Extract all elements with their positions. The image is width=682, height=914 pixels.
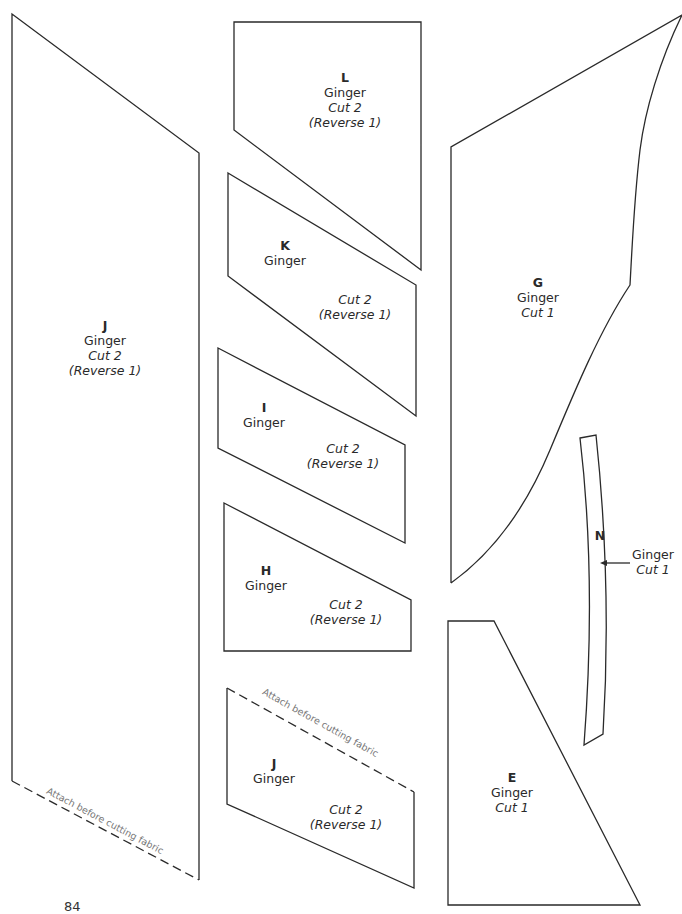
piece-cut: Cut 1	[628, 562, 678, 577]
piece-n-letter-label: N	[590, 528, 610, 543]
piece-color: Ginger	[244, 771, 304, 786]
piece-letter: G	[508, 275, 568, 290]
piece-k-label: K Ginger	[255, 238, 315, 268]
piece-n-outline	[580, 435, 606, 745]
piece-l-label: L Ginger Cut 2 (Reverse 1)	[290, 70, 400, 130]
piece-e-outline	[448, 621, 640, 905]
piece-cut: Cut 2	[288, 441, 398, 456]
piece-h-label: H Ginger	[236, 563, 296, 593]
piece-reverse: (Reverse 1)	[300, 307, 410, 322]
piece-reverse: (Reverse 1)	[290, 115, 400, 130]
piece-n-label: Ginger Cut 1	[628, 547, 678, 577]
piece-letter: K	[255, 238, 315, 253]
piece-h-cut-label: Cut 2 (Reverse 1)	[291, 597, 401, 627]
piece-cut: Cut 2	[300, 292, 410, 307]
piece-cut: Cut 2	[291, 802, 401, 817]
piece-letter: E	[482, 770, 542, 785]
piece-e-label: E Ginger Cut 1	[482, 770, 542, 815]
piece-k-cut-label: Cut 2 (Reverse 1)	[300, 292, 410, 322]
piece-cut: Cut 2	[290, 100, 400, 115]
piece-cut: Cut 2	[50, 348, 160, 363]
piece-reverse: (Reverse 1)	[291, 612, 401, 627]
piece-i-label: I Ginger	[234, 400, 294, 430]
piece-color: Ginger	[482, 785, 542, 800]
piece-letter: J	[50, 318, 160, 333]
piece-color: Ginger	[628, 547, 678, 562]
piece-j-large-attach-edge	[12, 781, 199, 880]
piece-cut: Cut 2	[291, 597, 401, 612]
piece-j-large-outline	[12, 14, 199, 880]
piece-cut: Cut 1	[508, 305, 568, 320]
piece-reverse: (Reverse 1)	[288, 456, 398, 471]
page-number: 84	[64, 899, 81, 914]
piece-color: Ginger	[236, 578, 296, 593]
piece-g-label: G Ginger Cut 1	[508, 275, 568, 320]
piece-reverse: (Reverse 1)	[50, 363, 160, 378]
piece-cut: Cut 1	[482, 800, 542, 815]
piece-i-cut-label: Cut 2 (Reverse 1)	[288, 441, 398, 471]
piece-letter: I	[234, 400, 294, 415]
piece-color: Ginger	[234, 415, 294, 430]
piece-j-small-cut-label: Cut 2 (Reverse 1)	[291, 802, 401, 832]
piece-color: Ginger	[290, 85, 400, 100]
piece-j-large-label: J Ginger Cut 2 (Reverse 1)	[50, 318, 160, 378]
piece-color: Ginger	[50, 333, 160, 348]
arrow-left-icon	[600, 560, 607, 566]
piece-letter: H	[236, 563, 296, 578]
piece-reverse: (Reverse 1)	[291, 817, 401, 832]
piece-color: Ginger	[255, 253, 315, 268]
piece-color: Ginger	[508, 290, 568, 305]
piece-j-small-label: J Ginger	[244, 756, 304, 786]
piece-letter: L	[290, 70, 400, 85]
piece-letter: N	[590, 528, 610, 543]
piece-letter: J	[244, 756, 304, 771]
